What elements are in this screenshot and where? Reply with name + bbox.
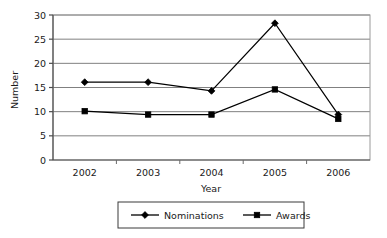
line-chart: 051015202530 20022003200420052006 Number… <box>0 0 387 238</box>
x-axis-tick-label: 2004 <box>199 167 223 178</box>
chart-canvas: 051015202530 20022003200420052006 Number… <box>0 0 387 238</box>
square-marker-icon <box>272 87 277 92</box>
x-axis-tick-label: 2002 <box>73 167 97 178</box>
x-axis-label: Year <box>200 183 221 194</box>
y-axis-tick-label: 10 <box>34 106 46 117</box>
square-marker-icon <box>209 112 214 117</box>
y-axis-tick-label: 0 <box>40 155 46 166</box>
x-axis-tick-label: 2005 <box>263 167 287 178</box>
square-marker-icon <box>145 112 150 117</box>
square-marker-icon <box>336 116 341 121</box>
y-axis-tick-label: 15 <box>34 82 46 93</box>
y-axis-label: Number <box>9 71 20 109</box>
chart-legend: NominationsAwards <box>118 202 310 228</box>
y-axis-tick-label: 25 <box>34 34 46 45</box>
y-axis-tick-label: 5 <box>40 130 46 141</box>
x-axis-tick-label: 2006 <box>326 167 350 178</box>
legend-label: Awards <box>276 210 310 221</box>
x-axis-tick-label: 2003 <box>136 167 160 178</box>
legend-label: Nominations <box>164 210 224 221</box>
square-marker-icon <box>82 108 87 113</box>
y-axis-tick-label: 20 <box>34 58 46 69</box>
y-axis-tick-label: 30 <box>34 10 46 21</box>
square-marker-icon <box>254 212 259 217</box>
